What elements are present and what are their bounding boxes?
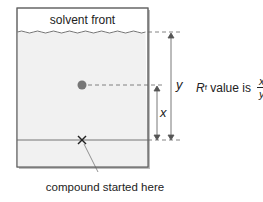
- start-caption: compound started here: [40, 181, 170, 193]
- rf-text: value is: [207, 81, 254, 95]
- compound-spot: [78, 81, 87, 90]
- fraction-denominator: y: [259, 89, 263, 99]
- solvent-region: [18, 31, 148, 167]
- chromatography-diagram: [0, 0, 263, 202]
- rf-symbol: R: [196, 81, 205, 95]
- rf-fraction: x y: [257, 76, 263, 99]
- rf-formula: Rf value is x y: [196, 76, 263, 99]
- y-distance-arrow: [168, 33, 174, 140]
- solvent-front-label: solvent front: [17, 13, 148, 27]
- x-label: x: [160, 105, 167, 120]
- y-label: y: [176, 77, 183, 92]
- fraction-numerator: x: [259, 76, 263, 86]
